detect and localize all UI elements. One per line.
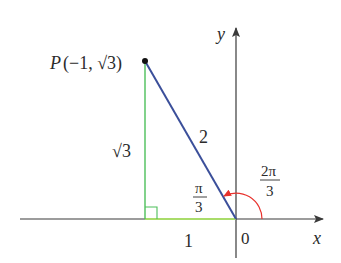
right-angle-marker bbox=[145, 207, 157, 219]
svg-text:3: 3 bbox=[195, 199, 203, 215]
horizontal-leg-label: 1 bbox=[184, 231, 193, 251]
x-axis-label: x bbox=[312, 228, 321, 248]
svg-text:2π: 2π bbox=[261, 163, 277, 179]
diagram-svg: P(−1, √3) y x 0 2 √3 1 π 3 2π 3 bbox=[0, 0, 341, 263]
svg-text:3: 3 bbox=[266, 183, 274, 199]
point-label: P(−1, √3) bbox=[49, 53, 122, 74]
reference-angle-label: π 3 bbox=[193, 180, 207, 215]
hypotenuse-label: 2 bbox=[199, 127, 208, 147]
origin-label: 0 bbox=[241, 229, 250, 248]
svg-text:π: π bbox=[195, 180, 203, 196]
diagram-canvas: P(−1, √3) y x 0 2 √3 1 π 3 2π 3 bbox=[0, 0, 341, 263]
point-p bbox=[142, 58, 148, 64]
hypotenuse bbox=[145, 61, 236, 219]
angle-arc bbox=[224, 193, 262, 219]
vertical-leg-label: √3 bbox=[112, 141, 131, 161]
y-axis-label: y bbox=[215, 24, 225, 44]
standard-angle-label: 2π 3 bbox=[260, 163, 280, 199]
